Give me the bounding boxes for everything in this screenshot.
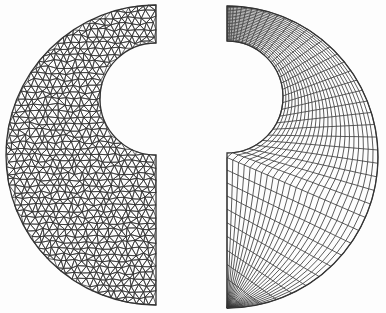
quad-elements: [227, 6, 378, 308]
quadrilateral-mesh: [0, 0, 386, 313]
figure: Two finite element meshes of a semicircu…: [0, 0, 386, 313]
